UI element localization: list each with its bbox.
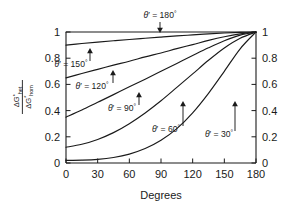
x-axis-title: Degrees xyxy=(140,189,182,201)
y-tick-label-right-0.6: 0.6 xyxy=(262,78,277,90)
y-tick-label-left-1: 1 xyxy=(54,26,60,38)
annotation-label: θ′ = 180° xyxy=(144,10,177,20)
equals-value: = 120 xyxy=(82,81,106,91)
y-tick-label-left-0: 0 xyxy=(54,157,60,169)
y-tick-label-left-0.6: 0.6 xyxy=(45,78,60,90)
y-tick-label-right-0: 0 xyxy=(262,157,268,169)
annotation-label: θ′ = 30° xyxy=(205,129,234,139)
degree-symbol: ° xyxy=(106,81,109,88)
annotation-label: θ′ = 90° xyxy=(108,103,137,113)
equals-value: = 60 xyxy=(158,124,178,134)
x-tick-label-30: 30 xyxy=(92,168,104,180)
annotation-label: θ′ = 150° xyxy=(55,59,88,69)
denominator-delta-g: ΔG xyxy=(24,98,33,109)
degree-symbol: ° xyxy=(174,10,177,17)
y-tick-label-right-0.2: 0.2 xyxy=(262,131,277,143)
nucleation-barrier-ratio-chart: 0306090120150180 00.20.40.60.81 00.20.40… xyxy=(0,0,297,207)
annotation-label: θ′ = 120° xyxy=(76,81,109,91)
equals-value: = 30 xyxy=(211,129,231,139)
x-tick-label-60: 60 xyxy=(123,168,135,180)
chart-figure: 0306090120150180 00.20.40.60.81 00.20.40… xyxy=(0,0,297,207)
y-tick-label-right-1: 1 xyxy=(262,26,268,38)
x-tick-label-90: 90 xyxy=(155,168,167,180)
annotation-label: θ′ = 60° xyxy=(152,124,181,134)
degree-symbol: ° xyxy=(85,59,88,66)
denominator-subscript: hom xyxy=(28,85,34,96)
y-tick-label-right-0.8: 0.8 xyxy=(262,52,277,64)
degree-symbol: ° xyxy=(178,124,181,131)
degree-symbol: ° xyxy=(134,103,137,110)
equals-value: = 180 xyxy=(150,10,174,20)
equals-value: = 90 xyxy=(114,103,134,113)
degree-symbol: ° xyxy=(231,129,234,136)
equals-value: = 150 xyxy=(61,59,85,69)
x-tick-label-150: 150 xyxy=(215,168,233,180)
x-tick-label-180: 180 xyxy=(247,168,265,180)
y-tick-label-left-0.4: 0.4 xyxy=(45,105,60,117)
x-tick-label-120: 120 xyxy=(183,168,201,180)
x-tick-label-0: 0 xyxy=(63,168,69,180)
numerator-delta-g: ΔG xyxy=(12,96,21,107)
y-tick-label-right-0.4: 0.4 xyxy=(262,105,277,117)
y-tick-label-left-0.2: 0.2 xyxy=(45,131,60,143)
